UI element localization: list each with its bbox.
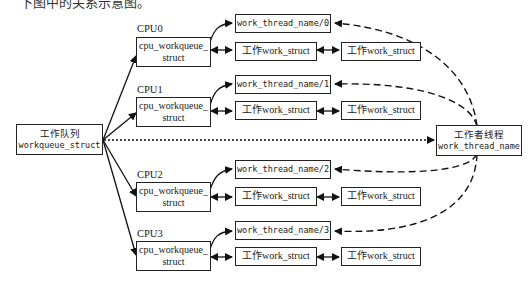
cpu1-work-struct-2: 工作work_struct (341, 101, 421, 120)
workqueue-title: 工作队列 (40, 128, 80, 140)
workqueue-name: workqueue_struct (19, 140, 101, 151)
cpu2-work-struct-2: 工作work_struct (341, 187, 421, 206)
worker-title: 工作者线程 (454, 129, 504, 141)
cpu2-label: CPU2 (137, 169, 163, 180)
worker-thread-box: 工作者线程 work_thread_name (436, 125, 522, 156)
struct-line2: struct (162, 197, 184, 210)
struct-line1: cpu_workqueue_ (139, 100, 208, 113)
cpu2-workqueue-struct: cpu_workqueue_ struct (136, 182, 211, 212)
cpu3-work-struct-2: 工作work_struct (341, 247, 421, 266)
cpu3-thread-box: work_thread_name/3 (235, 221, 331, 240)
cpu2-thread-box: work_thread_name/2 (235, 160, 331, 179)
cpu0-label: CPU0 (137, 23, 163, 34)
struct-line2: struct (162, 256, 184, 269)
cpu1-label: CPU1 (137, 84, 163, 95)
struct-line1: cpu_workqueue_ (139, 244, 208, 257)
cpu1-thread-box: work_thread_name/1 (235, 75, 331, 94)
cpu3-workqueue-struct: cpu_workqueue_ struct (136, 241, 211, 271)
struct-line2: struct (162, 112, 184, 125)
cpu1-workqueue-struct: cpu_workqueue_ struct (136, 97, 211, 127)
workqueue-struct-box: 工作队列 workqueue_struct (16, 124, 103, 155)
cpu1-work-struct-1: 工作work_struct (235, 101, 317, 120)
worker-name: work_thread_name (438, 141, 520, 152)
cpu3-work-struct-1: 工作work_struct (235, 247, 317, 266)
cpu0-work-struct-1: 工作work_struct (235, 42, 317, 61)
cpu0-workqueue-struct: cpu_workqueue_ struct (136, 37, 211, 67)
cpu0-thread-box: work_thread_name/0 (235, 14, 331, 33)
struct-line2: struct (162, 52, 184, 65)
cpu0-work-struct-2: 工作work_struct (341, 42, 421, 61)
cpu2-work-struct-1: 工作work_struct (235, 187, 317, 206)
struct-line1: cpu_workqueue_ (139, 185, 208, 198)
struct-line1: cpu_workqueue_ (139, 40, 208, 53)
cpu3-label: CPU3 (137, 228, 163, 239)
